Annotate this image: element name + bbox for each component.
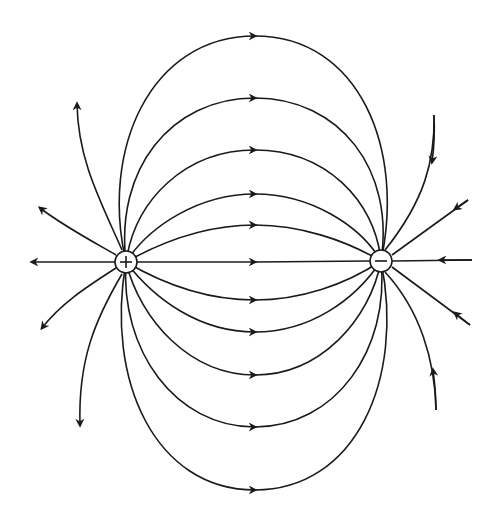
dipole-diagram: Electric field lines of an electric dipo…	[0, 0, 497, 522]
negative-charge	[370, 250, 392, 272]
positive-charge	[115, 251, 137, 273]
connecting-field-lines	[119, 36, 387, 490]
field-lines-canvas	[0, 0, 497, 522]
outgoing-field-lines	[32, 104, 122, 425]
incoming-field-lines	[385, 115, 472, 410]
